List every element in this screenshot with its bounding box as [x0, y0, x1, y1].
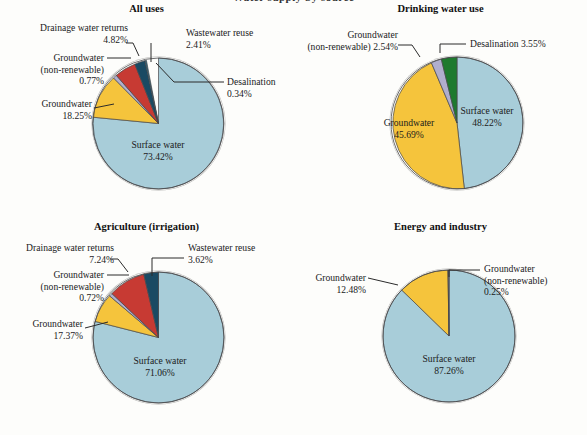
label-groundwater-non-renewable: Groundwater (non-renewable) 0.72%	[0, 269, 104, 304]
label-desalination: Desalination 0.34%	[227, 76, 276, 99]
chart-panel-drinking-water-use: Drinking water use Groundwater (non-rene…	[294, 0, 587, 217]
label-groundwater: Groundwater 12.48%	[294, 272, 366, 295]
chart-panel-all-uses: All uses Drainage water returns 4.82%	[0, 0, 293, 217]
pie-svg-all-uses	[92, 57, 225, 190]
label-groundwater: Groundwater 45.69%	[366, 117, 452, 140]
label-drainage-water-returns: Drainage water returns 4.82%	[0, 22, 128, 45]
label-drainage-water-returns: Drainage water returns 7.24%	[0, 242, 114, 265]
label-surface-water: Surface water 71.06%	[110, 355, 210, 378]
label-groundwater-non-renewable: Groundwater (non-renewable) 0.25%	[484, 263, 547, 298]
chart-title-drinking-water-use: Drinking water use	[294, 3, 587, 14]
label-wastewater-reuse: Wastewater reuse 2.41%	[186, 27, 253, 50]
label-wastewater-reuse: Wastewater reuse 3.62%	[188, 242, 255, 265]
label-surface-water: Surface water 48.22%	[444, 105, 530, 128]
chart-title-all-uses: All uses	[0, 3, 293, 14]
pie-svg-agriculture-irrigation	[92, 271, 225, 404]
label-surface-water: Surface water 73.42%	[108, 139, 208, 162]
label-surface-water: Surface water 87.26%	[399, 353, 499, 376]
chart-panel-agriculture-irrigation: Agriculture (irrigation) Drainage water …	[0, 218, 293, 435]
label-groundwater: Groundwater 17.37%	[0, 318, 83, 341]
chart-title-energy-and-industry: Energy and industry	[294, 221, 587, 232]
label-desalination: Desalination 3.55%	[470, 38, 546, 50]
label-groundwater-non-renewable: Groundwater (non-renewable) 2.54%	[294, 29, 398, 52]
chart-panel-energy-and-industry: Energy and industry Groundwater 12.48% G…	[294, 218, 587, 435]
label-groundwater: Groundwater 18.25%	[0, 98, 92, 121]
label-groundwater-non-renewable: Groundwater (non-renewable) 0.77%	[0, 52, 104, 87]
chart-title-agriculture-irrigation: Agriculture (irrigation)	[0, 221, 293, 232]
